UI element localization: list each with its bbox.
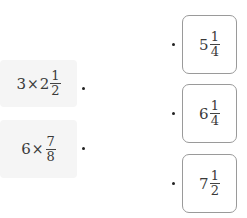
right-answer-box-2[interactable]: 6 1 4	[182, 84, 237, 143]
right-answer-box-1[interactable]: 5 1 4	[182, 15, 237, 74]
whole-part: 2	[40, 75, 50, 93]
left-expression-box-1[interactable]: 3 × 2 1 2	[0, 60, 77, 107]
multiply-sign: ×	[32, 141, 44, 157]
denominator: 2	[51, 84, 59, 98]
whole-part: 6	[199, 105, 209, 123]
mixed-number: 6 1 4	[199, 99, 220, 128]
right-answer-box-3[interactable]: 7 1 2	[182, 154, 237, 213]
left-connector-dot-2[interactable]	[82, 147, 85, 150]
right-connector-dot-1[interactable]	[172, 43, 175, 46]
mixed-number: 7 1 2	[199, 169, 220, 198]
expression: 3 × 2 1 2	[16, 69, 60, 98]
expression: 6 × 7 8	[21, 135, 56, 164]
denominator: 4	[211, 45, 219, 59]
mixed-number: 5 1 4	[199, 30, 220, 59]
numerator: 1	[210, 99, 220, 114]
fraction: 1 4	[210, 30, 220, 59]
numerator: 1	[210, 30, 220, 45]
multiply-sign: ×	[27, 76, 39, 92]
fraction: 1 4	[210, 99, 220, 128]
left-connector-dot-1[interactable]	[82, 87, 85, 90]
right-connector-dot-3[interactable]	[172, 182, 175, 185]
operand: 6	[21, 140, 31, 158]
whole-part: 7	[199, 175, 209, 193]
numerator: 1	[210, 169, 220, 184]
numerator: 7	[46, 135, 56, 150]
denominator: 2	[211, 184, 219, 198]
operand: 3	[16, 75, 26, 93]
left-expression-box-2[interactable]: 6 × 7 8	[0, 120, 77, 178]
fraction: 7 8	[46, 135, 56, 164]
whole-part: 5	[199, 36, 209, 54]
numerator: 1	[50, 69, 60, 84]
fraction: 1 2	[210, 169, 220, 198]
right-connector-dot-2[interactable]	[172, 112, 175, 115]
denominator: 4	[211, 114, 219, 128]
fraction: 1 2	[50, 69, 60, 98]
denominator: 8	[47, 150, 55, 164]
